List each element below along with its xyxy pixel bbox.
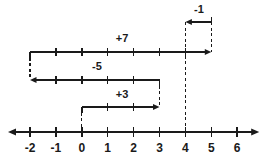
axis-tick-label: 0 bbox=[78, 141, 85, 155]
axis-tick-label: 5 bbox=[208, 141, 215, 155]
jump-minus-5-label: -5 bbox=[92, 60, 102, 72]
number-line-diagram: +7-1-5+3-2-10123456 bbox=[0, 0, 263, 156]
jump-minus-5-arrowhead bbox=[30, 77, 37, 83]
jump-minus-1-arrowhead bbox=[185, 19, 192, 25]
jump-plus-7-arrowhead bbox=[205, 49, 212, 55]
jump-plus-7-label: +7 bbox=[116, 32, 129, 44]
axis-tick-label: -1 bbox=[51, 141, 62, 155]
jump-plus-3-arrowhead bbox=[153, 104, 160, 110]
diagram-canvas bbox=[0, 0, 263, 156]
axis-tick-label: 2 bbox=[130, 141, 137, 155]
axis-tick-label: 4 bbox=[182, 141, 189, 155]
axis-tick-label: 3 bbox=[156, 141, 163, 155]
axis-tick-label: 1 bbox=[104, 141, 111, 155]
jump-plus-3-label: +3 bbox=[116, 88, 129, 100]
axis-right-arrowhead bbox=[251, 128, 259, 135]
axis-left-arrowhead bbox=[8, 128, 16, 135]
axis-tick-label: -2 bbox=[25, 141, 36, 155]
jump-minus-1-label: -1 bbox=[194, 3, 204, 15]
axis-tick-label: 6 bbox=[234, 141, 241, 155]
